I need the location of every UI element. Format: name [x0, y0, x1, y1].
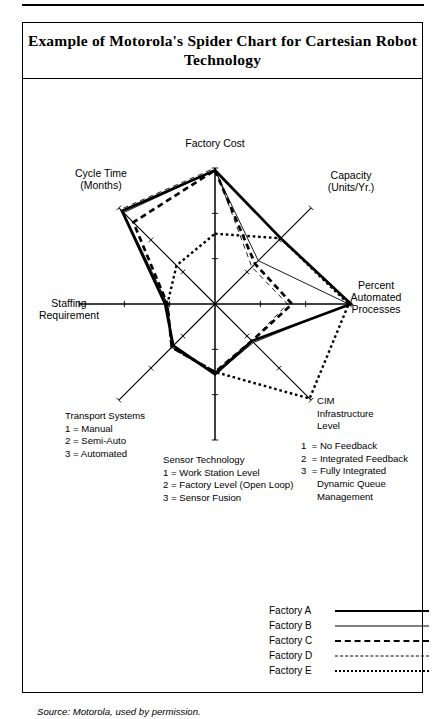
axis-label-cycle-time: Cycle Time (Months): [49, 167, 153, 191]
axis-label-staffing: Staffing Requirement: [21, 297, 117, 321]
axis-spoke-cim: [215, 304, 311, 400]
legend-label-factory-a: Factory A: [269, 605, 329, 616]
legend-row: Factory D: [269, 648, 429, 663]
chart-stage: Factory Cost Capacity (Units/Yr.) Percen…: [23, 79, 422, 694]
top-rule: [22, 4, 424, 6]
legend-row: Factory B: [269, 618, 429, 633]
legend-row: Factory C: [269, 633, 429, 648]
legend-label-factory-b: Factory B: [269, 620, 329, 631]
legend-label-factory-c: Factory C: [269, 635, 329, 646]
definitions-cim-level: 1 = No Feedback 2 = Integrated Feedback …: [301, 440, 408, 503]
legend-swatch-factory-c: [335, 636, 429, 646]
figure-page: Example of Motorola's Spider Chart for C…: [0, 0, 445, 719]
legend-swatch-factory-e: [335, 666, 429, 676]
legend-row: Factory A: [269, 603, 429, 618]
legend-swatch-factory-a: [335, 606, 429, 616]
figure-box: Example of Motorola's Spider Chart for C…: [22, 22, 423, 693]
legend-row: Factory E: [269, 663, 429, 678]
source-note: Source: Motorola, used by permission.: [37, 706, 201, 717]
axis-label-factory-cost: Factory Cost: [145, 137, 285, 149]
legend-swatch-factory-d: [335, 651, 429, 661]
axis-spoke-capacity: [215, 208, 311, 304]
chart-axes: [79, 168, 351, 440]
definitions-transport-systems: Transport Systems 1 = Manual 2 = Semi-Au…: [65, 410, 145, 461]
title-band: Example of Motorola's Spider Chart for C…: [23, 23, 422, 79]
series-polygon-factory-c: [133, 170, 292, 372]
figure-title: Example of Motorola's Spider Chart for C…: [23, 32, 422, 70]
axis-label-cim: CIM Infrastructure Level: [317, 395, 381, 433]
definitions-sensor-technology: Sensor Technology 1 = Work Station Level…: [163, 454, 293, 505]
series-legend: Factory A Factory B Factory C Factory D …: [269, 603, 429, 678]
legend-label-factory-d: Factory D: [269, 650, 329, 661]
legend-swatch-factory-b: [335, 621, 429, 631]
axis-label-percent-automated: Percent Automated Processes: [333, 279, 419, 315]
axis-label-capacity: Capacity (Units/Yr.): [296, 169, 406, 193]
legend-label-factory-e: Factory E: [269, 665, 329, 676]
